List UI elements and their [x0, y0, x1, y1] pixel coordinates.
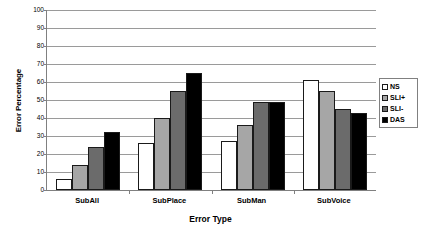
legend-label: DAS: [390, 116, 405, 123]
y-axis-tick-labels: 1009080706050403020100: [24, 10, 44, 190]
bar-slot: [72, 10, 88, 190]
plot-area: [46, 10, 376, 191]
bar-group: [129, 10, 211, 190]
bar-slot: [221, 10, 237, 190]
bar-slot: [303, 10, 319, 190]
x-tick-mark: [294, 190, 295, 194]
bar-slot: [269, 10, 285, 190]
legend-swatch-icon: [382, 117, 388, 123]
legend-label: SLI+: [390, 94, 405, 101]
bar[interactable]: [72, 165, 88, 190]
x-tick-label: SubVoice: [293, 196, 375, 205]
y-tick-label: 90: [24, 25, 44, 32]
legend-item[interactable]: DAS: [382, 114, 415, 125]
bar[interactable]: [154, 118, 170, 190]
y-tick-label: 40: [24, 115, 44, 122]
bar[interactable]: [335, 109, 351, 190]
legend-label: SLI-: [390, 105, 403, 112]
x-axis-title: Error Type: [46, 214, 375, 224]
y-tick-mark: [44, 190, 47, 191]
bar-slot: [56, 10, 72, 190]
legend-swatch-icon: [382, 106, 388, 112]
bar[interactable]: [303, 80, 319, 190]
bar[interactable]: [56, 179, 72, 190]
bar[interactable]: [319, 91, 335, 190]
bar-group: [212, 10, 294, 190]
y-tick-label: 70: [24, 61, 44, 68]
bar[interactable]: [237, 125, 253, 190]
legend-label: NS: [390, 83, 400, 90]
bar-slot: [253, 10, 269, 190]
x-tick-mark: [212, 190, 213, 194]
y-tick-label: 60: [24, 79, 44, 86]
y-tick-label: 50: [24, 97, 44, 104]
x-tick-mark: [129, 190, 130, 194]
y-tick-label: 20: [24, 151, 44, 158]
legend-swatch-icon: [382, 84, 388, 90]
y-tick-label: 80: [24, 43, 44, 50]
bar[interactable]: [170, 91, 186, 190]
legend-item[interactable]: SLI-: [382, 103, 415, 114]
bar-slot: [104, 10, 120, 190]
y-tick-label: 30: [24, 133, 44, 140]
bar[interactable]: [186, 73, 202, 190]
legend-item[interactable]: NS: [382, 81, 415, 92]
bar-slot: [138, 10, 154, 190]
bar-group: [294, 10, 376, 190]
bar-groups: [47, 10, 376, 190]
bar-slot: [186, 10, 202, 190]
y-tick-label: 0: [24, 187, 44, 194]
legend: NSSLI+SLI-DAS: [379, 78, 418, 128]
x-tick-label: SubPlace: [128, 196, 210, 205]
bar[interactable]: [88, 147, 104, 190]
bar[interactable]: [104, 132, 120, 190]
bar-slot: [88, 10, 104, 190]
x-tick-label: SubMan: [211, 196, 293, 205]
bar-group: [47, 10, 129, 190]
legend-swatch-icon: [382, 95, 388, 101]
bar[interactable]: [221, 141, 237, 190]
y-tick-label: 100: [24, 7, 44, 14]
y-axis-title: Error Percentage: [14, 41, 23, 161]
bar[interactable]: [253, 102, 269, 190]
bar-slot: [170, 10, 186, 190]
bar[interactable]: [269, 102, 285, 190]
bar-chart: Error Percentage 1009080706050403020100 …: [0, 0, 423, 236]
bar-slot: [237, 10, 253, 190]
y-tick-label: 10: [24, 169, 44, 176]
x-axis-tick-labels: SubAllSubPlaceSubManSubVoice: [46, 196, 375, 205]
bar-slot: [319, 10, 335, 190]
bar-slot: [351, 10, 367, 190]
bar-slot: [335, 10, 351, 190]
bar[interactable]: [351, 113, 367, 190]
legend-item[interactable]: SLI+: [382, 92, 415, 103]
bar[interactable]: [138, 143, 154, 190]
x-tick-label: SubAll: [46, 196, 128, 205]
bar-slot: [154, 10, 170, 190]
